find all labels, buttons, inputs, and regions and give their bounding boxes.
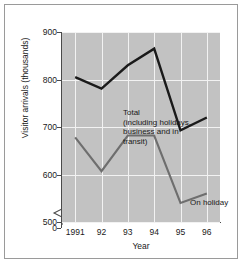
annotation-total: Total (including holidays, business and … xyxy=(123,108,191,146)
annotation-on-holiday: On holiday xyxy=(190,198,228,208)
x-axis-title: Year xyxy=(62,241,220,251)
y-axis-tick-labels: 9008007006005000 xyxy=(28,32,57,222)
x-axis-tick-label: 96 xyxy=(202,227,211,237)
y-axis-tick xyxy=(57,32,61,33)
chart-frame: Visitor arrivals (thousands) 90080070060… xyxy=(4,4,238,259)
x-axis-tick-label: 1991 xyxy=(66,227,85,237)
y-axis-tick xyxy=(57,127,61,128)
y-axis-tick-label: 600 xyxy=(43,170,57,180)
x-axis-tick-label: 92 xyxy=(97,227,106,237)
y-axis-tick-label: 700 xyxy=(43,122,57,132)
y-axis-tick xyxy=(57,228,61,229)
y-axis-tick xyxy=(57,80,61,81)
y-axis-tick xyxy=(57,222,61,223)
x-axis-tick-label: 93 xyxy=(123,227,132,237)
gridline-horizontal xyxy=(62,222,220,223)
plot-area: Total (including holidays, business and … xyxy=(62,32,220,222)
x-axis-tick-label: 95 xyxy=(176,227,185,237)
y-axis-tick-label: 800 xyxy=(43,75,57,85)
x-axis-tick-labels: 19919293949596 xyxy=(62,225,220,239)
chart-figure: Visitor arrivals (thousands) 90080070060… xyxy=(0,0,243,277)
y-axis-tick xyxy=(57,175,61,176)
x-axis-tick-label: 94 xyxy=(149,227,158,237)
y-axis-tick-label: 900 xyxy=(43,27,57,37)
